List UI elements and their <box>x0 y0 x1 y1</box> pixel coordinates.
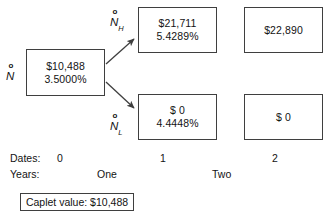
branch-arrow-down <box>106 82 134 108</box>
caplet-value-callout: Caplet value: $10,488 <box>20 193 134 211</box>
node-box-high: $21,711 5.4289% <box>138 7 217 53</box>
date-tick-0: 0 <box>57 152 63 164</box>
caplet-value-label: Caplet value: $10,488 <box>26 196 128 208</box>
node-label-subscript-low: L <box>118 128 122 137</box>
binomial-tree-diagram: o N o NH o NL $10,488 3.5000% $21,711 5.… <box>0 0 328 218</box>
dates-caption: Dates: <box>10 152 40 164</box>
node-box-high-terminal: $22,890 <box>244 7 323 53</box>
node-root-value: $10,488 <box>46 60 85 73</box>
node-box-low-terminal: $ 0 <box>244 94 323 140</box>
node-label-subscript-high: H <box>118 24 123 33</box>
node-box-root: $10,488 3.5000% <box>26 49 105 96</box>
node-label-marker-high: o <box>113 8 118 16</box>
node-high-terminal-value: $22,890 <box>264 24 303 37</box>
node-low-rate: 4.4448% <box>156 117 198 130</box>
node-high-value: $21,711 <box>159 17 197 30</box>
node-root-rate: 3.5000% <box>44 73 86 86</box>
year-period-one: One <box>97 168 117 180</box>
node-label-marker-root: o <box>9 62 14 70</box>
node-low-terminal-value: $ 0 <box>276 111 291 124</box>
timeline-dates-row: Dates: 0 1 2 <box>0 152 328 167</box>
timeline-years-row: Years: One Two <box>0 168 328 183</box>
node-label-n-high: o NH <box>110 8 124 31</box>
node-label-symbol-root: N <box>6 71 14 83</box>
node-label-n-low: o NL <box>110 112 122 135</box>
node-label-symbol-high: NH <box>110 17 124 31</box>
year-period-two: Two <box>212 168 231 180</box>
node-label-marker-low: o <box>113 112 118 120</box>
date-tick-2: 2 <box>272 152 278 164</box>
date-tick-1: 1 <box>160 152 166 164</box>
node-low-value: $ 0 <box>170 104 185 117</box>
node-high-rate: 5.4289% <box>156 30 198 43</box>
node-label-symbol-low: NL <box>110 121 122 135</box>
years-caption: Years: <box>10 168 39 180</box>
node-label-n-root: o N <box>6 62 14 83</box>
node-box-low: $ 0 4.4448% <box>138 94 217 140</box>
branch-arrow-up <box>106 39 134 64</box>
